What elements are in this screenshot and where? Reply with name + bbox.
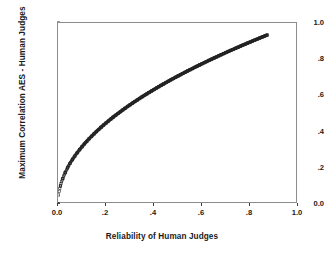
chart-figure: Maximum Correlation AES - Human Judges 0…	[0, 0, 324, 255]
x-tick-label: 0.0	[37, 208, 77, 217]
data-point	[58, 203, 59, 204]
x-tick-mark	[105, 203, 106, 206]
x-tick-mark	[249, 203, 250, 206]
scatter-series-max-correlation	[58, 23, 298, 204]
x-tick-label: 1.0	[277, 208, 317, 217]
x-tick-label: .4	[133, 208, 173, 217]
data-point	[59, 187, 61, 189]
x-tick-label: .8	[229, 208, 269, 217]
plot-area	[57, 22, 297, 203]
x-tick-label: .6	[181, 208, 221, 217]
x-tick-label: .2	[85, 208, 125, 217]
x-tick-mark	[297, 203, 298, 206]
x-tick-mark	[153, 203, 154, 206]
y-axis-title: Maximum Correlation AES - Human Judges	[18, 0, 27, 243]
data-point	[58, 190, 60, 192]
x-tick-mark	[57, 203, 58, 206]
x-tick-mark	[201, 203, 202, 206]
data-point	[58, 194, 60, 196]
x-axis-title: Reliability of Human Judges	[0, 232, 324, 241]
